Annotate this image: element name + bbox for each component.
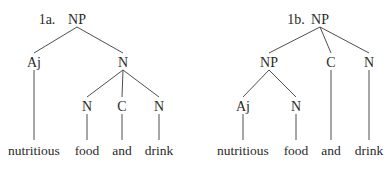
tree-1b-node-n: N bbox=[364, 55, 374, 70]
tree-1b-edge-np-aj bbox=[243, 70, 269, 97]
tree-1a-word-w2: food bbox=[75, 143, 100, 158]
tree-1b-node-c: C bbox=[326, 55, 335, 70]
tree-1b-node-np: NP bbox=[260, 55, 278, 70]
tree-1b-node-root: NP bbox=[311, 12, 329, 27]
tree-1a-edge-n-n1 bbox=[87, 70, 123, 97]
tree-1b-word-w2: food bbox=[284, 143, 309, 158]
tree-1a-edge-root-n bbox=[77, 27, 123, 53]
tree-1a-word-w4: drink bbox=[145, 143, 174, 158]
tree-1a-edge-n-c bbox=[122, 70, 123, 97]
tree-1b-edge-root-n bbox=[320, 27, 369, 53]
tree-1a-node-root: NP bbox=[68, 12, 86, 27]
tree-1b-edge-np-n1 bbox=[269, 70, 296, 97]
tree-1a-edge-n-n2 bbox=[123, 70, 159, 97]
tree-1a-word-w3: and bbox=[112, 143, 132, 158]
tree-1b-node-aj: Aj bbox=[236, 99, 250, 114]
tree-1a-node-aj: Aj bbox=[27, 55, 41, 70]
tree-1b-word-w1: nutritious bbox=[217, 143, 269, 158]
tree-1b-node-n1: N bbox=[291, 99, 301, 114]
tree-edges bbox=[34, 27, 369, 140]
tree-1a-node-n1: N bbox=[82, 99, 92, 114]
tree-1b-word-w3: and bbox=[321, 143, 341, 158]
tree-1b-label: 1b. bbox=[287, 12, 305, 27]
tree-1b-word-w4: drink bbox=[355, 143, 384, 158]
tree-1a-node-n: N bbox=[118, 55, 128, 70]
tree-1b-edge-root-c bbox=[320, 27, 331, 53]
tree-1a-node-c: C bbox=[117, 99, 126, 114]
syntax-tree-diagram: 1a. 1b. NPAjNNCNnutritiousfoodanddrinkNP… bbox=[0, 0, 387, 174]
tree-1a-word-w1: nutritious bbox=[8, 143, 60, 158]
tree-1a-edge-root-aj bbox=[34, 27, 77, 53]
tree-1a-label: 1a. bbox=[39, 12, 56, 27]
tree-nodes: NPAjNNCNnutritiousfoodanddrinkNPNPCNAjNn… bbox=[8, 12, 383, 158]
tree-1b-edge-root-np bbox=[269, 27, 320, 53]
tree-1a-node-n2: N bbox=[154, 99, 164, 114]
